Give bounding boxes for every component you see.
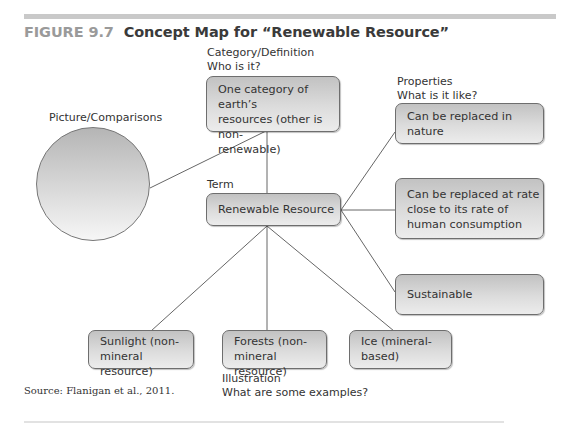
category-question: Who is it?	[207, 60, 261, 74]
line-term-example-1	[151, 226, 267, 331]
property-node-1: Can be replaced in nature	[395, 103, 544, 144]
line-term-property-1	[341, 132, 395, 210]
property-1-line-2: nature	[407, 124, 543, 139]
definition-line-1: One category of earth’s	[218, 82, 339, 112]
example-1-line-1: Sunlight (non-	[100, 334, 193, 349]
term-label: Term	[207, 178, 234, 192]
line-term-example-3	[267, 226, 394, 331]
example-3-line-2: based)	[361, 349, 451, 364]
definition-node: One category of earth’s resources (other…	[206, 76, 340, 132]
picture-circle	[36, 127, 150, 241]
example-1-line-2: mineral resource)	[100, 349, 193, 379]
property-node-3: Sustainable	[395, 274, 544, 315]
picture-label: Picture/Comparisons	[49, 111, 162, 125]
example-2-line-1: Forests (non-	[234, 334, 326, 349]
term-text: Renewable Resource	[218, 202, 340, 217]
property-3-line-1: Sustainable	[407, 287, 543, 302]
property-node-2: Can be replaced at rate close to its rat…	[395, 178, 544, 239]
property-2-line-2: close to its rate of	[407, 202, 543, 217]
category-label: Category/Definition	[207, 46, 314, 60]
definition-line-3: renewable)	[218, 142, 339, 157]
illustration-label: Illustration	[222, 372, 281, 386]
definition-line-2: resources (other is non-	[218, 112, 339, 142]
properties-question: What is it like?	[397, 89, 477, 103]
line-term-property-3	[341, 210, 395, 292]
example-3-line-1: Ice (mineral-	[361, 334, 451, 349]
example-node-2: Forests (non- mineral resource)	[222, 330, 327, 369]
property-2-line-3: human consumption	[407, 217, 543, 232]
bottom-rule	[24, 421, 504, 423]
property-2-line-1: Can be replaced at rate	[407, 187, 543, 202]
example-node-3: Ice (mineral- based)	[349, 330, 452, 369]
property-1-line-1: Can be replaced in	[407, 109, 543, 124]
term-node: Renewable Resource	[206, 193, 341, 226]
example-node-1: Sunlight (non- mineral resource)	[88, 330, 194, 369]
source-citation: Source: Flanigan et al., 2011.	[24, 385, 174, 396]
illustration-question: What are some examples?	[222, 386, 368, 400]
properties-label: Properties	[397, 75, 453, 89]
